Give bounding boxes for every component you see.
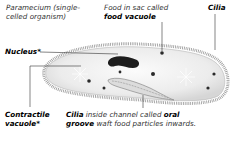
oral-groove-caption-line2: groove waft food particles inwards.	[66, 119, 196, 128]
contractile-vacuole-left	[72, 66, 88, 82]
food-vacuole-caption: Food in sac called	[104, 3, 168, 12]
food-vacuole-label: food vacuole	[104, 12, 156, 21]
oral-groove-cilia-term: Cilia	[66, 110, 84, 119]
oral-groove-term-groove: groove	[66, 119, 94, 128]
title-line2: celled organism)	[6, 12, 66, 21]
nucleus-label: Nucleus*	[5, 47, 41, 56]
oral-groove-term-oral: oral	[164, 110, 180, 119]
oral-groove-caption-line1: Cilia inside channel called oral	[66, 110, 180, 119]
contractile-vacuole-label-line1: Contractile	[5, 110, 50, 119]
oral-groove-text1: inside channel called	[84, 110, 164, 119]
contractile-vacuole-label-line2: vacuole*	[5, 119, 40, 128]
oral-groove-text2: waft food particles inwards.	[94, 119, 196, 128]
title-line1: Paramecium (single-	[6, 3, 80, 12]
cilia-label: Cilia	[208, 3, 226, 12]
